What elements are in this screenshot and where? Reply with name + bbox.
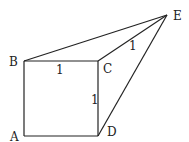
geometry-diagram: E B C A D 1 1 1 [0,0,189,142]
length-label-cd: 1 [91,93,99,107]
point-label-b: B [9,55,18,69]
length-label-bc: 1 [56,63,64,77]
point-label-d: D [107,125,117,139]
edge-ce [98,15,167,61]
point-label-c: C [103,62,112,76]
point-label-e: E [173,9,182,23]
edge-be [24,15,167,61]
point-label-a: A [9,130,19,142]
length-label-ce: 1 [129,39,137,53]
